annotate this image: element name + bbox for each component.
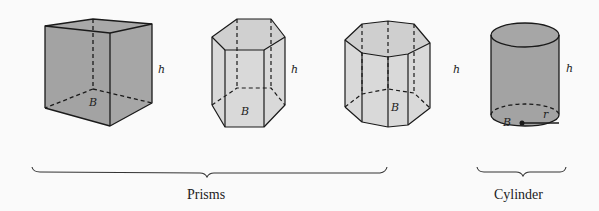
octagonal-prism-shape (345, 21, 430, 127)
hexagonal-prism-height-label: h (291, 63, 298, 76)
cube-shape (45, 19, 152, 126)
cylinder-height-label: h (566, 62, 573, 75)
octagonal-prism-height-label: h (453, 63, 460, 76)
cylinder-brace (477, 167, 566, 176)
solids-diagram: B h B h B h (0, 0, 599, 211)
prisms-caption: Prisms (187, 187, 225, 202)
cube-base-label: B (88, 96, 97, 109)
cylinder-caption: Cylinder (494, 187, 543, 202)
hexagonal-prism-base-label: B (240, 105, 249, 118)
prisms-brace (32, 167, 387, 177)
cylinder-shape (491, 23, 559, 126)
octagonal-prism-base-label: B (390, 101, 399, 114)
cube-height-label: h (158, 63, 165, 76)
cylinder-base-label: B (502, 116, 511, 129)
cylinder-radius-label: r (543, 108, 549, 121)
